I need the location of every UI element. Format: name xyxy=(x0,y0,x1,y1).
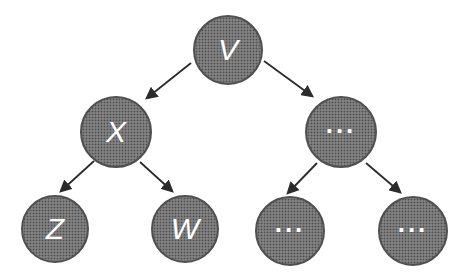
node-left-child: X xyxy=(80,96,152,168)
arrow-dots-to-dots1 xyxy=(288,163,317,193)
node-leaf-dots-1: ... xyxy=(255,196,325,266)
node-root-label: V xyxy=(218,35,238,65)
arrow-x-to-w xyxy=(140,162,172,191)
arrow-v-to-dots xyxy=(264,61,312,96)
node-left-child-label: X xyxy=(106,117,126,147)
node-leaf-z: Z xyxy=(21,195,89,263)
node-root: V xyxy=(193,15,263,85)
node-right-child: ... xyxy=(305,96,377,168)
node-leaf-dots-1-label: ... xyxy=(275,210,306,236)
node-leaf-z-label: Z xyxy=(46,214,64,244)
arrow-dots-to-dots2 xyxy=(366,163,400,192)
node-leaf-dots-2: ... xyxy=(378,196,448,266)
node-leaf-dots-2-label: ... xyxy=(398,210,429,236)
arrow-v-to-x xyxy=(147,63,191,98)
arrow-x-to-z xyxy=(61,161,94,191)
node-leaf-w-label: W xyxy=(171,214,199,244)
node-right-child-label: ... xyxy=(326,111,357,137)
tree-diagram: V X ... Z W ... ... xyxy=(0,0,474,275)
node-leaf-w: W xyxy=(151,195,219,263)
